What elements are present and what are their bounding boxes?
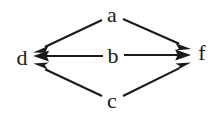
node-a: a	[107, 4, 117, 26]
edge-c-to-d	[33, 63, 102, 96]
edge-c-to-f	[123, 62, 191, 96]
edge-a-to-f-arrowhead	[175, 43, 192, 50]
directed-graph-figure: a b c d f	[0, 0, 216, 120]
edge-a-to-d-line	[45, 20, 102, 47]
edge-b-to-f	[124, 50, 191, 61]
edge-c-to-f-arrowhead	[175, 62, 191, 70]
edge-c-to-f-line	[123, 68, 179, 96]
edge-a-to-d	[33, 20, 102, 53]
edge-c-to-d-arrowhead	[33, 63, 49, 70]
edge-a-to-f	[123, 19, 191, 50]
edge-c-to-d-line	[45, 69, 102, 96]
edge-a-to-f-line	[123, 19, 179, 44]
node-c: c	[107, 90, 117, 112]
node-f: f	[198, 42, 205, 64]
node-d: d	[17, 47, 28, 69]
node-b: b	[108, 45, 119, 67]
